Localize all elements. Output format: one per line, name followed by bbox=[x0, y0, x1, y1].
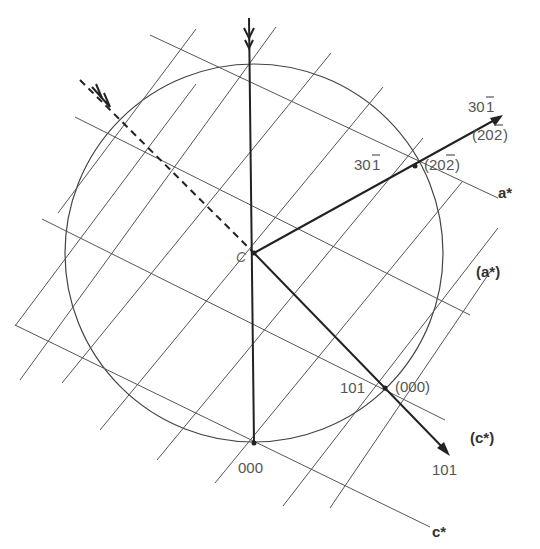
lattice-point-20-2 bbox=[413, 164, 418, 169]
lattice-line bbox=[157, 138, 423, 460]
svg-text:(20: (20 bbox=[424, 156, 446, 173]
diffracted-beam-30-1 bbox=[254, 115, 503, 253]
secondary-incident-beam bbox=[80, 80, 254, 253]
origin-secondary-label: (000) bbox=[395, 378, 430, 395]
svg-text:1: 1 bbox=[486, 98, 494, 115]
arrow-30-1-label: 30 1 (20 2 ) bbox=[468, 97, 508, 143]
svg-text:1: 1 bbox=[372, 156, 380, 173]
diffracted-beam-line bbox=[254, 253, 447, 452]
sphere-center-point bbox=[252, 251, 257, 256]
ewald-diagram: C 000 101 (000) 30 1 (20 2 ) 30 1 (20 2 … bbox=[0, 0, 540, 549]
lattice-line bbox=[62, 53, 331, 383]
incident-beam bbox=[244, 18, 254, 443]
origin-primary-label: 000 bbox=[238, 459, 263, 476]
svg-text:(20: (20 bbox=[472, 126, 494, 143]
diagram-canvas: C 000 101 (000) 30 1 (20 2 ) 30 1 (20 2 … bbox=[0, 0, 540, 549]
lattice-c-star-lines bbox=[15, 35, 498, 527]
point-30-1-label: 30 1 bbox=[354, 155, 380, 173]
svg-text:30: 30 bbox=[468, 98, 485, 115]
center-label: C bbox=[236, 249, 247, 265]
lattice-line bbox=[150, 35, 498, 198]
lattice-line bbox=[20, 27, 276, 380]
svg-text:2: 2 bbox=[446, 156, 454, 173]
diffracted-beam-line bbox=[254, 117, 500, 253]
arrow-101-label: 101 bbox=[432, 461, 457, 478]
dashed-beam-line bbox=[80, 80, 254, 253]
diffracted-beam-101 bbox=[254, 253, 450, 456]
svg-text:): ) bbox=[503, 126, 508, 143]
svg-text:2: 2 bbox=[494, 126, 502, 143]
svg-text:30: 30 bbox=[354, 156, 371, 173]
point-20-2-label: (20 2 ) bbox=[424, 155, 460, 173]
lattice-point-000 bbox=[252, 441, 257, 446]
arrow-head-icon bbox=[490, 115, 503, 126]
point-101-label: 101 bbox=[340, 379, 365, 396]
lattice-line-c-star bbox=[15, 325, 430, 527]
lattice-a-star-lines bbox=[15, 27, 498, 508]
a-star-label: a* bbox=[498, 184, 512, 201]
a-star-secondary-label: (a*) bbox=[476, 263, 500, 280]
lattice-point-101 bbox=[383, 386, 388, 391]
c-star-secondary-label: (c*) bbox=[470, 429, 494, 446]
lattice-line bbox=[58, 29, 196, 213]
svg-text:): ) bbox=[455, 156, 460, 173]
c-star-label: c* bbox=[432, 523, 446, 540]
incident-beam-line bbox=[249, 18, 254, 443]
lattice-line bbox=[15, 84, 196, 326]
